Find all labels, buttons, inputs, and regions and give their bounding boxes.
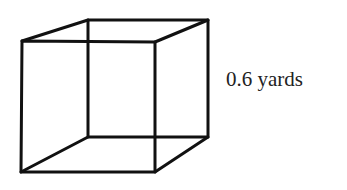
cube-diagram: 0.6 yards: [0, 0, 347, 190]
cube-edge-bottom-right: [155, 137, 208, 172]
side-length-label: 0.6 yards: [226, 67, 303, 91]
cube-edge-bottom-left: [21, 137, 88, 172]
cube-edge-top-left: [22, 20, 88, 41]
cube-back-face: [88, 20, 208, 137]
cube: [21, 20, 208, 172]
cube-edge-top-right: [155, 20, 208, 42]
